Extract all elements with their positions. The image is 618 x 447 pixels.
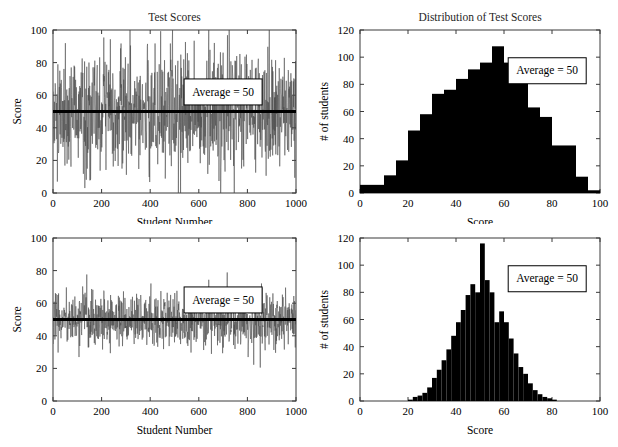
histogram-bar xyxy=(418,396,423,401)
y-tick-label-top-left-4: 80 xyxy=(36,57,48,69)
histogram-bar xyxy=(588,190,600,193)
histogram-bar xyxy=(360,185,372,193)
chart-panel-test-scores-line-low-spread: 02004006008001000020406080100Student Num… xyxy=(0,224,309,447)
histogram-bar xyxy=(470,284,475,401)
chart-panel-distribution-histogram: Distribution of Test Scores0204060801000… xyxy=(309,0,618,224)
histogram-bar xyxy=(372,185,384,193)
histogram-bar xyxy=(504,322,509,401)
y-tick-label-bottom-right-1: 20 xyxy=(343,368,355,380)
x-tick-label-bottom-left-1: 200 xyxy=(93,405,110,417)
x-tick-label-bottom-right-4: 80 xyxy=(547,405,559,417)
x-tick-label-top-left-2: 400 xyxy=(142,197,159,209)
histogram-bar xyxy=(552,400,557,401)
histogram-bar xyxy=(490,292,495,401)
histogram-bar xyxy=(499,311,504,401)
histogram-bar xyxy=(528,107,540,193)
x-tick-label-top-right-1: 20 xyxy=(403,197,415,209)
y-tick-label-top-right-0: 0 xyxy=(349,187,355,199)
y-tick-label-bottom-right-2: 40 xyxy=(343,341,355,353)
x-tick-label-bottom-right-1: 20 xyxy=(403,405,415,417)
x-tick-label-bottom-left-3: 600 xyxy=(191,405,208,417)
histogram-bar xyxy=(384,175,396,193)
average-annotation-bottom-right: Average = 50 xyxy=(508,266,586,292)
histogram-bar xyxy=(422,393,427,401)
histogram-bar xyxy=(442,360,447,401)
histogram-bar xyxy=(492,46,504,193)
histogram-bar xyxy=(427,387,432,401)
y-tick-label-top-left-3: 60 xyxy=(36,89,48,101)
y-tick-label-top-left-2: 40 xyxy=(36,122,48,134)
histogram-bar xyxy=(437,370,442,401)
histogram-bar xyxy=(420,114,432,193)
average-annotation-label: Average = 50 xyxy=(192,86,254,99)
x-tick-label-bottom-left-5: 1000 xyxy=(285,405,308,417)
plot-title-top-right: Distribution of Test Scores xyxy=(418,11,542,23)
histogram-bar xyxy=(466,295,471,401)
x-tick-label-top-left-3: 600 xyxy=(191,197,208,209)
x-tick-label-top-right-2: 40 xyxy=(451,197,463,209)
x-tick-label-top-right-4: 80 xyxy=(547,197,559,209)
y-tick-label-top-left-0: 0 xyxy=(42,187,48,199)
x-tick-label-top-left-4: 800 xyxy=(239,197,256,209)
x-tick-label-bottom-right-5: 100 xyxy=(592,405,609,417)
histogram-bar xyxy=(413,397,418,401)
y-tick-label-bottom-left-3: 60 xyxy=(36,297,48,309)
y-tick-label-top-left-1: 20 xyxy=(36,154,48,166)
histogram-bar xyxy=(576,177,588,193)
histogram-bar xyxy=(432,378,437,401)
histogram-bar xyxy=(468,69,480,193)
histogram-bar xyxy=(456,322,461,401)
histogram-bar xyxy=(547,398,552,401)
y-tick-label-bottom-left-0: 0 xyxy=(42,395,48,407)
x-axis-label-top-left: Student Number xyxy=(137,216,213,224)
histogram-bar xyxy=(516,67,528,193)
histogram-bar xyxy=(446,349,451,401)
histogram-bar xyxy=(444,90,456,193)
y-tick-label-bottom-right-0: 0 xyxy=(349,395,355,407)
histogram-bar xyxy=(461,310,466,401)
x-tick-label-top-left-0: 0 xyxy=(50,197,56,209)
x-tick-label-top-left-5: 1000 xyxy=(285,197,308,209)
histogram-bar xyxy=(542,397,547,401)
y-tick-label-bottom-left-1: 20 xyxy=(36,362,48,374)
chart-svg-bottom-right: 020406080100020406080100120Score# of stu… xyxy=(309,224,618,447)
x-tick-label-top-right-5: 100 xyxy=(592,197,609,209)
x-tick-label-bottom-left-4: 800 xyxy=(239,405,256,417)
chart-panel-distribution-histogram-narrow: 020406080100020406080100120Score# of stu… xyxy=(309,224,618,447)
y-tick-label-bottom-left-4: 80 xyxy=(36,265,48,277)
y-axis-label-top-right: # of students xyxy=(318,82,330,141)
histogram-bar xyxy=(518,367,523,401)
histogram-bar xyxy=(408,400,413,401)
y-tick-label-top-right-2: 40 xyxy=(343,133,355,145)
y-tick-label-top-right-3: 60 xyxy=(343,106,355,118)
x-tick-label-top-right-0: 0 xyxy=(357,197,363,209)
data-layer-top-left xyxy=(53,30,296,193)
y-axis-label-bottom-left: Score xyxy=(11,306,23,332)
histogram-bar xyxy=(538,394,543,401)
x-axis-label-bottom-right: Score xyxy=(467,424,493,436)
histogram-bar xyxy=(451,336,456,401)
y-tick-label-bottom-right-5: 100 xyxy=(338,259,355,271)
test-scores-figure: Test Scores02004006008001000020406080100… xyxy=(0,0,618,447)
histogram-bar xyxy=(564,145,576,193)
histogram-bar xyxy=(552,145,564,193)
x-tick-label-bottom-left-0: 0 xyxy=(50,405,56,417)
average-annotation-top-right: Average = 50 xyxy=(508,58,586,84)
y-tick-label-top-right-4: 80 xyxy=(343,78,355,90)
average-annotation-label: Average = 50 xyxy=(516,64,578,77)
y-tick-label-bottom-right-3: 60 xyxy=(343,314,355,326)
x-axis-label-bottom-left: Student Number xyxy=(137,424,213,436)
y-tick-label-bottom-left-5: 100 xyxy=(31,232,48,244)
y-tick-label-bottom-left-2: 40 xyxy=(36,330,48,342)
y-tick-label-bottom-right-4: 80 xyxy=(343,286,355,298)
chart-svg-bottom-left: 02004006008001000020406080100Student Num… xyxy=(0,224,309,447)
histogram-bar xyxy=(480,243,485,401)
x-tick-label-bottom-right-0: 0 xyxy=(357,405,363,417)
x-tick-label-bottom-right-3: 60 xyxy=(499,405,511,417)
y-axis-label-top-left: Score xyxy=(11,98,23,124)
histogram-bar xyxy=(494,322,499,401)
histogram-bar xyxy=(523,374,528,401)
chart-svg-top-right: Distribution of Test Scores0204060801000… xyxy=(309,0,618,224)
y-tick-label-top-right-5: 100 xyxy=(338,51,355,63)
histogram-bar xyxy=(514,353,519,401)
